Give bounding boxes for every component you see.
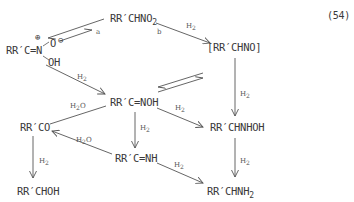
compound-aci-nitro: RR′C=N [6,45,42,56]
compound-hydroxylamine: RR′CHNHOH [210,122,264,133]
reaction-scheme: (54) RR′CHNO2 a b H2 RR′C=N ⊕ O ⊖ OH H2 … [0,0,354,202]
label-h2: H2 [186,23,196,30]
label-h2: H2 [39,158,49,165]
label-h2o: H2O [76,137,92,144]
compound-nitro-text: RR′CHNO [110,12,152,24]
positive-charge: ⊕ [35,33,40,42]
label-h2: H2 [175,105,185,112]
hydroxyl: OH [48,57,60,68]
compound-alcohol: RR′CHOH [17,186,59,197]
arrow-aci-to-oxime [46,65,105,94]
oxide-oxygen: O [50,38,56,49]
compound-oxime: RR′C=NOH [110,97,158,108]
label-h2o: H2O [70,103,86,110]
label-h2: H2 [240,158,250,165]
subscript: 2 [249,191,254,200]
compound-ketone: RR′CO [20,122,50,133]
compound-imine: RR′C=NH [115,153,157,164]
equation-number: (54) [327,11,350,21]
arrow-aci-to-nitro [60,30,92,41]
arrows-layer [0,0,354,202]
label-h2: H2 [140,125,150,132]
label-h2: H2 [77,74,87,81]
negative-charge: ⊖ [58,36,63,45]
compound-amine-text: RR′CHNH [207,185,249,197]
arrow-nitro-to-nitroso [156,23,210,43]
compound-nitroso: [RR′CHNO] [207,42,261,53]
compound-amine: RR′CHNH2 [207,186,254,197]
label-b: b [157,29,161,36]
label-h2: H2 [174,162,184,169]
compound-nitro: RR′CHNO2 [110,13,157,24]
subscript: 2 [152,18,157,27]
label-h2: H2 [240,91,250,98]
label-a: a [96,29,100,36]
